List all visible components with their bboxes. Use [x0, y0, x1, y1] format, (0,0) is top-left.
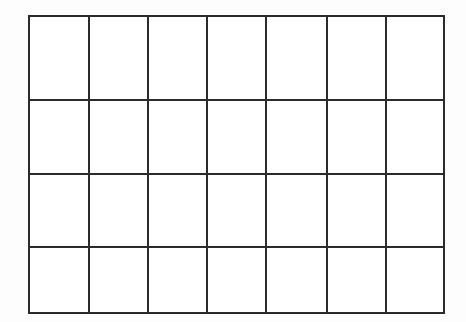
grid-cell[interactable] [89, 100, 148, 174]
grid-cell-text [267, 101, 326, 173]
grid-cell-text [208, 17, 265, 99]
grid-cell[interactable] [29, 247, 89, 313]
grid-cell[interactable] [89, 174, 148, 247]
grid-cell[interactable] [148, 247, 207, 313]
grid-cell[interactable] [207, 16, 266, 100]
grid-body [29, 16, 444, 313]
grid-cell[interactable] [327, 100, 386, 174]
grid-cell-text [149, 248, 206, 312]
table-row [29, 100, 444, 174]
grid-cell-text [267, 17, 326, 99]
grid-cell[interactable] [327, 174, 386, 247]
grid-cell[interactable] [207, 100, 266, 174]
grid-cell[interactable] [327, 16, 386, 100]
grid-cell[interactable] [266, 16, 327, 100]
grid-cell-text [149, 17, 206, 99]
blank-grid-table [28, 15, 445, 314]
grid-cell[interactable] [29, 16, 89, 100]
grid-cell[interactable] [386, 174, 444, 247]
grid-cell[interactable] [266, 174, 327, 247]
grid-cell-text [387, 17, 443, 99]
grid-cell-text [328, 175, 385, 246]
grid-cell-text [267, 248, 326, 312]
grid-cell-text [387, 248, 443, 312]
grid-cell-text [208, 175, 265, 246]
table-row [29, 16, 444, 100]
grid-cell[interactable] [148, 100, 207, 174]
grid-cell[interactable] [207, 247, 266, 313]
grid-cell-text [90, 101, 147, 173]
grid-cell[interactable] [148, 174, 207, 247]
grid-cell[interactable] [266, 247, 327, 313]
grid-cell-text [149, 175, 206, 246]
grid-cell[interactable] [266, 100, 327, 174]
grid-cell-text [208, 248, 265, 312]
grid-cell[interactable] [89, 247, 148, 313]
grid-cell[interactable] [89, 16, 148, 100]
grid-cell[interactable] [29, 174, 89, 247]
grid-cell[interactable] [386, 100, 444, 174]
table-row [29, 247, 444, 313]
grid-cell-text [387, 175, 443, 246]
grid-cell-text [30, 101, 88, 173]
grid-cell-text [30, 17, 88, 99]
grid-cell-text [90, 175, 147, 246]
grid-cell[interactable] [327, 247, 386, 313]
grid-cell[interactable] [386, 247, 444, 313]
grid-cell-text [90, 17, 147, 99]
figure-canvas [0, 0, 466, 322]
grid-cell-text [328, 248, 385, 312]
grid-cell-text [208, 101, 265, 173]
grid-cell[interactable] [386, 16, 444, 100]
table-row [29, 174, 444, 247]
grid-cell-text [328, 101, 385, 173]
grid-cell-text [328, 17, 385, 99]
grid-cell[interactable] [207, 174, 266, 247]
grid-cell[interactable] [29, 100, 89, 174]
grid-cell[interactable] [148, 16, 207, 100]
grid-cell-text [90, 248, 147, 312]
grid-cell-text [30, 175, 88, 246]
grid-cell-text [387, 101, 443, 173]
grid-cell-text [149, 101, 206, 173]
grid-cell-text [30, 248, 88, 312]
grid-cell-text [267, 175, 326, 246]
